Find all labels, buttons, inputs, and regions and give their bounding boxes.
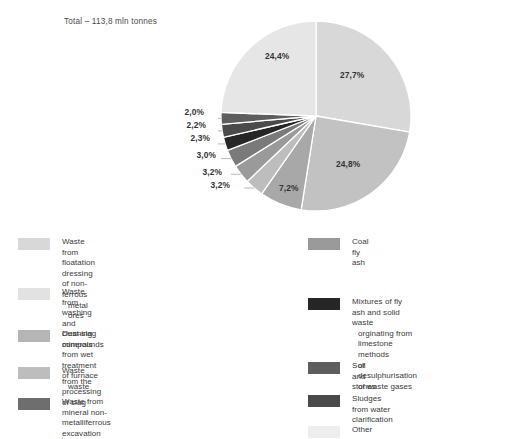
- pie-slice-group: [221, 21, 411, 211]
- legend-color-swatch: [18, 330, 50, 342]
- legend-color-swatch: [18, 238, 50, 250]
- legend-color-swatch: [308, 238, 340, 250]
- legend-item-label: Sludges from water clarification: [352, 394, 393, 426]
- chart-total-title: Total – 113,8 mln tonnes: [64, 17, 157, 26]
- legend-item-label: Waste from mineral non-metalliferrous ex…: [62, 397, 111, 439]
- legend-color-swatch: [308, 426, 340, 438]
- slice-callout-8: 2,2%: [162, 120, 206, 130]
- slice-callout-5: 3,2%: [178, 167, 222, 177]
- legend-item-label: Soil and stones: [352, 361, 376, 393]
- slice-value-10: 24,4%: [265, 51, 289, 61]
- legend-color-swatch: [18, 398, 50, 410]
- legend-color-swatch: [308, 298, 340, 310]
- legend-color-swatch: [308, 395, 340, 407]
- legend-color-swatch: [18, 367, 50, 379]
- slice-callout-7: 2,3%: [166, 133, 210, 143]
- slice-callout-6: 3,0%: [172, 150, 216, 160]
- pie-chart-svg: [218, 18, 414, 214]
- slice-value-2: 24,8%: [336, 159, 360, 169]
- legend-item-label: Coal fly ash: [352, 237, 369, 269]
- slice-value-1: 27,7%: [340, 70, 364, 80]
- chart-legend: Waste from floatation dressing of non-fe…: [0, 230, 514, 423]
- legend-color-swatch: [308, 362, 340, 374]
- slice-callout-4: 3,2%: [186, 180, 230, 190]
- pie-slice: [221, 21, 316, 116]
- legend-item-label: Other: [352, 425, 372, 436]
- slice-value-3: 7,2%: [279, 183, 299, 193]
- pie-chart: 27,7% 24,8% 7,2% 24,4%: [218, 18, 414, 214]
- slice-callout-9: 2,0%: [160, 107, 204, 117]
- legend-color-swatch: [18, 288, 50, 300]
